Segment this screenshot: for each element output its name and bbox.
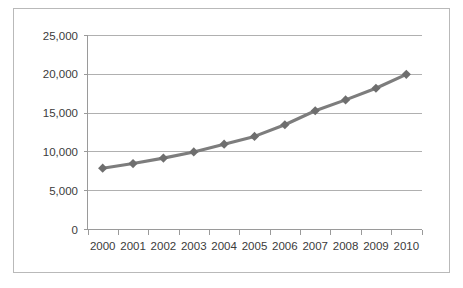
series-line <box>103 74 407 168</box>
data-point-2009 <box>371 84 380 93</box>
x-axis-tick-labels: 2000200120022003200420052006200720082009… <box>90 240 419 252</box>
x-axis-label-2006: 2006 <box>272 240 298 252</box>
gridlines <box>88 36 422 191</box>
data-point-2003 <box>189 147 198 156</box>
chart-frame: 05,00010,00015,00020,00025,000 200020012… <box>13 8 450 273</box>
data-point-2006 <box>280 120 289 129</box>
data-series-group <box>98 70 411 173</box>
x-axis-ticks <box>89 230 423 235</box>
data-point-2010 <box>402 70 411 79</box>
x-axis-label-2007: 2007 <box>302 240 328 252</box>
series-markers <box>98 70 411 173</box>
x-axis-label-2009: 2009 <box>363 240 389 252</box>
data-point-2008 <box>341 95 350 104</box>
x-axis-label-2010: 2010 <box>394 240 420 252</box>
y-axis-label-5000: 5,000 <box>49 185 78 197</box>
x-axis-label-2001: 2001 <box>120 240 146 252</box>
x-axis-label-2000: 2000 <box>90 240 116 252</box>
x-axis-label-2003: 2003 <box>181 240 207 252</box>
y-axis-label-15000: 15,000 <box>43 107 78 119</box>
x-axis-label-2002: 2002 <box>151 240 177 252</box>
data-point-2004 <box>220 140 229 149</box>
y-axis-ticks <box>84 36 88 230</box>
data-point-2002 <box>159 154 168 163</box>
data-point-2001 <box>128 159 137 168</box>
line-chart: 05,00010,00015,00020,00025,000 200020012… <box>14 9 449 272</box>
y-axis-tick-labels: 05,00010,00015,00020,00025,000 <box>43 30 78 236</box>
y-axis-label-25000: 25,000 <box>43 30 78 42</box>
data-point-2005 <box>250 132 259 141</box>
screenshot-root: 05,00010,00015,00020,00025,000 200020012… <box>0 0 463 288</box>
data-point-2000 <box>98 164 107 173</box>
y-axis-label-0: 0 <box>72 224 78 236</box>
x-axis-label-2004: 2004 <box>211 240 237 252</box>
y-axis-label-10000: 10,000 <box>43 146 78 158</box>
x-axis-label-2005: 2005 <box>242 240 268 252</box>
x-axis-label-2008: 2008 <box>333 240 359 252</box>
y-axis-label-20000: 20,000 <box>43 68 78 80</box>
